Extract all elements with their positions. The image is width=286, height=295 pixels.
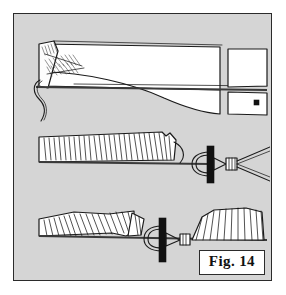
figure-root: .ln { fill:none; stroke:#1a1a1a; stroke-… xyxy=(0,0,286,295)
panel-middle-barb-strip xyxy=(39,132,270,183)
bottom-pliers-clamp-ferrule xyxy=(180,234,190,245)
black-square-marker xyxy=(254,100,259,105)
pliers-tail-wire-upper xyxy=(237,147,270,161)
pliers-tail-wire-lower-2 xyxy=(237,164,270,177)
pliers-jaw-bar xyxy=(207,146,214,183)
figure-illustration: .ln { fill:none; stroke:#1a1a1a; stroke-… xyxy=(14,14,270,279)
pliers-wedge xyxy=(214,158,226,170)
right-panel-lower xyxy=(228,92,267,115)
figure-caption-label: Fig. 14 xyxy=(199,250,265,275)
pliers-tail-wire-upper-2 xyxy=(237,151,270,164)
pliers-tail-wire-lower xyxy=(237,167,270,181)
right-barb-block xyxy=(192,208,264,240)
figure-frame: .ln { fill:none; stroke:#1a1a1a; stroke-… xyxy=(13,13,272,281)
panel-top-feather-quill xyxy=(34,41,267,121)
barb-strip-stem xyxy=(39,162,210,164)
right-panel-upper xyxy=(228,49,267,87)
bottom-pliers-jaw-bar xyxy=(159,218,166,262)
bottom-pliers-wedge xyxy=(166,233,180,246)
